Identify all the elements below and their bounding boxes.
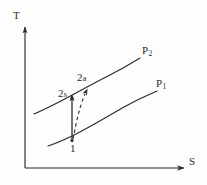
state-point-2s-label: 2s: [58, 88, 67, 99]
isobar-p2-label: P2: [142, 45, 152, 56]
state-point-2s-marker: [71, 96, 74, 99]
state-point-2a-label: 2a: [77, 72, 87, 83]
ts-diagram-figure: T S P2 P1 2a 2s 1: [0, 0, 207, 185]
isobar-p2-curve: [34, 58, 140, 114]
entropy-axis-label: S: [189, 156, 195, 167]
diagram-canvas: [0, 0, 207, 185]
state-point-1-label: 1: [70, 143, 76, 154]
isobar-p1-label: P1: [156, 78, 166, 89]
temperature-axis-label: T: [13, 10, 20, 21]
